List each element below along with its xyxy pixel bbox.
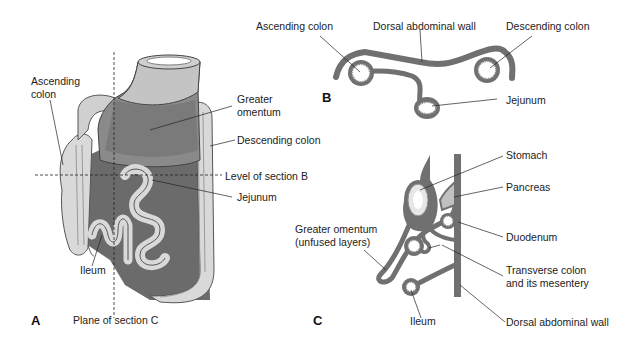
- label-duodenum-c: Duodenum: [506, 231, 557, 244]
- embryology-figure: Ascending colon Greater omentum Descendi…: [0, 0, 636, 346]
- c-pancreas: [440, 182, 455, 210]
- label-line: Ascending: [31, 75, 80, 88]
- label-stomach-c: Stomach: [506, 149, 547, 162]
- label-plane-section-c: Plane of section C: [73, 314, 158, 327]
- label-jejunum-a: Jejunum: [237, 191, 277, 204]
- label-line: Transverse colon: [506, 264, 589, 277]
- label-descending-colon-a: Descending colon: [237, 134, 320, 147]
- label-line: colon: [31, 88, 80, 101]
- panel-letter-a: A: [31, 313, 40, 328]
- label-dorsal-wall-c: Dorsal abdominal wall: [506, 316, 609, 329]
- label-line: Greater omentum: [295, 223, 377, 236]
- label-line: Greater: [237, 93, 281, 106]
- label-ascending-colon-a: Ascending colon: [31, 75, 80, 100]
- label-line: omentum: [237, 106, 281, 119]
- label-pancreas-c: Pancreas: [506, 181, 550, 194]
- label-descending-colon-b: Descending colon: [506, 20, 589, 33]
- label-jejunum-b: Jejunum: [506, 94, 546, 107]
- panel-letter-b: B: [322, 90, 331, 105]
- label-line: (unfused layers): [295, 236, 377, 249]
- label-greater-omentum-c: Greater omentum (unfused layers): [295, 223, 377, 248]
- label-transverse-colon-c: Transverse colon and its mesentery: [506, 264, 589, 289]
- panel-c-illustration: [0, 0, 636, 346]
- label-ileum-a: Ileum: [80, 264, 106, 277]
- label-ascending-colon-b: Ascending colon: [256, 20, 333, 33]
- label-ileum-c: Ileum: [410, 315, 436, 328]
- label-dorsal-wall-b: Dorsal abdominal wall: [373, 20, 476, 33]
- panel-letter-c: C: [313, 313, 322, 328]
- label-greater-omentum-a: Greater omentum: [237, 93, 281, 118]
- label-line: and its mesentery: [506, 277, 589, 290]
- label-level-section-b: Level of section B: [225, 170, 308, 183]
